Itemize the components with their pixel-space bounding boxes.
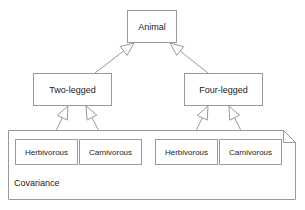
note-label-covariance: Covariance xyxy=(14,178,60,188)
class-box-four-legged-carnivorous[interactable]: Carnivorous xyxy=(219,139,282,165)
class-name-four-legged-herbivorous: Herbivorous xyxy=(165,148,208,157)
class-name-two-legged-herbivorous: Herbivorous xyxy=(25,148,68,157)
uml-class-diagram: Animal Two-legged Four-legged Covariance… xyxy=(0,0,305,210)
class-name-two-legged-carnivorous: Carnivorous xyxy=(89,148,132,157)
class-box-animal[interactable]: Animal xyxy=(127,10,177,43)
class-box-two-legged-herbivorous[interactable]: Herbivorous xyxy=(15,139,78,165)
class-box-two-legged-carnivorous[interactable]: Carnivorous xyxy=(79,139,142,165)
class-box-four-legged-herbivorous[interactable]: Herbivorous xyxy=(155,139,218,165)
class-name-four-legged-carnivorous: Carnivorous xyxy=(229,148,272,157)
class-name-four-legged: Four-legged xyxy=(199,85,248,95)
class-name-animal: Animal xyxy=(138,22,166,32)
class-box-two-legged[interactable]: Two-legged xyxy=(33,73,112,106)
class-name-two-legged: Two-legged xyxy=(49,85,96,95)
class-box-four-legged[interactable]: Four-legged xyxy=(184,73,263,106)
